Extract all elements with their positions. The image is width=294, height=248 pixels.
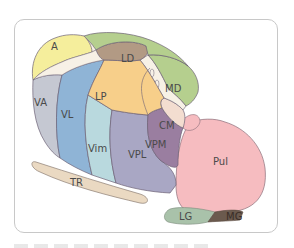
- label-LG: LG: [179, 211, 192, 222]
- label-CM: CM: [159, 120, 175, 131]
- label-VL: VL: [61, 109, 74, 120]
- label-LP: LP: [95, 91, 107, 102]
- label-TR: TR: [69, 177, 83, 188]
- label-A: A: [51, 41, 58, 52]
- label-Vim: Vim: [88, 143, 107, 154]
- label-Pul: Pul: [213, 156, 228, 167]
- label-VPL: VPL: [128, 149, 147, 160]
- caption-cropped: [14, 244, 214, 248]
- thalamus-diagram: A LD MD LP VA VL Vim VPL VPM CM Pul LG M…: [0, 0, 294, 248]
- label-VA: VA: [34, 97, 47, 108]
- label-LD: LD: [121, 53, 135, 64]
- label-VPM: VPM: [145, 139, 167, 150]
- label-MD: MD: [165, 83, 182, 94]
- label-MG: MG: [226, 211, 242, 222]
